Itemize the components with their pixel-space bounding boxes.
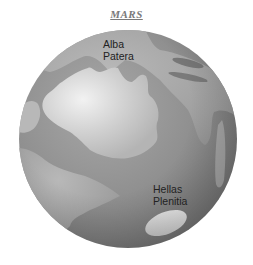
label-line: Patera [103, 50, 134, 62]
label-hellas-planitia: Hellas Plenitia [153, 183, 187, 207]
label-line: Alba [103, 38, 134, 50]
label-line: Plenitia [153, 195, 187, 207]
label-alba-patera: Alba Patera [103, 38, 134, 62]
label-line: Hellas [153, 183, 187, 195]
